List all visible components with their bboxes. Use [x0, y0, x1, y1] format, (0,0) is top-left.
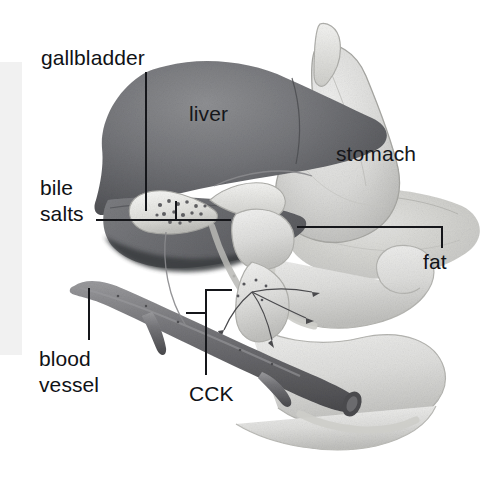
fat-leader-line	[297, 226, 443, 228]
anatomy-figure: gallbladder liver stomach bile salts fat…	[0, 0, 488, 477]
bile-salts-leader-riser	[175, 201, 177, 220]
label-stomach: stomach	[336, 141, 416, 166]
cck-leader-stub	[186, 312, 206, 314]
label-bile-salts-line1: bile	[40, 174, 73, 201]
cck-leader-top	[205, 289, 232, 291]
label-cck: CCK	[189, 381, 234, 406]
blood-vessel-leader-line	[88, 288, 90, 340]
label-fat: fat	[423, 249, 447, 274]
label-gallbladder: gallbladder	[41, 45, 145, 70]
gallbladder-leader-line	[145, 72, 147, 211]
label-liver: liver	[189, 101, 228, 126]
bile-salts-leader-line	[96, 219, 231, 221]
cck-leader-stem	[205, 289, 207, 375]
anatomy-illustration	[0, 0, 488, 477]
label-bile-salts-line2: salts	[40, 200, 84, 227]
fat-leader-drop	[441, 226, 443, 248]
label-blood-vessel-line2: vessel	[39, 371, 99, 398]
label-blood-vessel-line1: blood	[39, 345, 91, 372]
